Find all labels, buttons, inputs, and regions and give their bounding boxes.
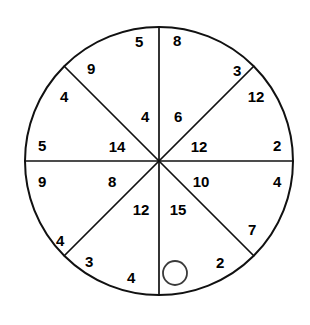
sector-number-label: 12 bbox=[133, 202, 149, 217]
sector-number-label: 12 bbox=[191, 139, 207, 154]
sector-number-label: 10 bbox=[193, 174, 209, 189]
sector-number-label: 15 bbox=[170, 202, 186, 217]
sector-number-label: 6 bbox=[174, 109, 182, 124]
sector-number-label: 8 bbox=[173, 33, 181, 48]
sector-number-label: 5 bbox=[38, 138, 46, 153]
wheel-svg bbox=[0, 0, 310, 325]
circle-sector-figure: 58934124651412298104121574324 bbox=[0, 0, 310, 325]
sector-number-label: 14 bbox=[109, 139, 125, 154]
sector-number-label: 4 bbox=[60, 89, 68, 104]
sector-number-label: 8 bbox=[108, 174, 116, 189]
sector-number-label: 12 bbox=[248, 89, 264, 104]
sector-number-label: 3 bbox=[85, 254, 93, 269]
sector-number-label: 9 bbox=[87, 61, 95, 76]
sector-number-label: 7 bbox=[248, 222, 256, 237]
sector-number-label: 3 bbox=[233, 63, 241, 78]
radii-group bbox=[25, 27, 293, 295]
sector-number-label: 2 bbox=[273, 138, 281, 153]
sector-number-label: 4 bbox=[56, 233, 64, 248]
sector-number-label: 5 bbox=[135, 34, 143, 49]
sector-number-label: 4 bbox=[273, 174, 281, 189]
sector-number-label: 4 bbox=[127, 270, 135, 285]
sector-number-label: 9 bbox=[38, 174, 46, 189]
sector-number-label: 2 bbox=[216, 255, 224, 270]
sector-number-label: 4 bbox=[141, 109, 149, 124]
